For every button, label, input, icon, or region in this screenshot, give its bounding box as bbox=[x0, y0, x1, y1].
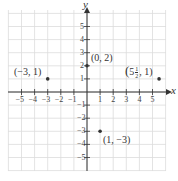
y-tick-label: 3 bbox=[80, 49, 84, 57]
y-tick-label: 5 bbox=[80, 23, 84, 31]
x-tick-label: 3 bbox=[124, 96, 128, 104]
x-tick-label: −1 bbox=[68, 96, 77, 104]
x-tick-label: −5 bbox=[16, 96, 25, 104]
whole: 5 bbox=[129, 66, 134, 77]
y-tick-label: −4 bbox=[77, 140, 86, 148]
x-tick-label: 5 bbox=[151, 96, 155, 104]
y-tick-label: 2 bbox=[80, 62, 84, 70]
data-point bbox=[46, 77, 50, 81]
x-tick-label: 4 bbox=[137, 96, 141, 104]
axes bbox=[8, 12, 166, 171]
x-tick-label: 2 bbox=[111, 96, 115, 104]
y-tick-label: −3 bbox=[77, 127, 86, 135]
y-tick-label: −1 bbox=[77, 101, 86, 109]
y-axis-label: y bbox=[83, 0, 88, 10]
point-label-5half-1: (512, 1) bbox=[125, 64, 153, 79]
point-label-1-neg3: (1, −3) bbox=[103, 135, 130, 145]
numerator: 1 bbox=[135, 66, 138, 73]
y-tick-label: 4 bbox=[80, 36, 84, 44]
x-tick-label: −2 bbox=[55, 96, 64, 104]
point-label-neg3-1: (−3, 1) bbox=[14, 67, 41, 77]
coordinate-plane bbox=[0, 0, 178, 181]
data-point bbox=[85, 64, 89, 68]
fraction: 12 bbox=[135, 66, 138, 79]
denominator: 2 bbox=[135, 73, 138, 79]
x-axis-label: x bbox=[171, 85, 176, 96]
rest: , 1) bbox=[139, 66, 152, 77]
x-tick-label: −3 bbox=[42, 96, 51, 104]
x-tick-label: −4 bbox=[29, 96, 38, 104]
y-tick-label: 1 bbox=[80, 75, 84, 83]
data-point bbox=[98, 130, 102, 134]
y-tick-label: −2 bbox=[77, 114, 86, 122]
data-point bbox=[157, 77, 161, 81]
x-tick-label: 1 bbox=[98, 96, 102, 104]
point-label-0-2: (0, 2) bbox=[91, 53, 113, 63]
y-tick-label: −5 bbox=[77, 154, 86, 162]
